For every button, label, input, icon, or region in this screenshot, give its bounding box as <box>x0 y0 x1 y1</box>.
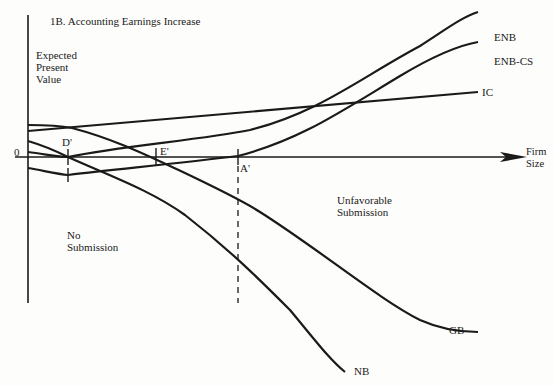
origin-label: 0 <box>14 146 20 158</box>
x-axis-label: Firm Size <box>526 146 546 170</box>
curve-label-enb: ENB <box>494 31 516 43</box>
curve-label-enb-cs: ENB-CS <box>494 55 533 67</box>
point-d-label: D' <box>62 136 72 148</box>
curve-label-ic: IC <box>482 86 493 98</box>
diagram-canvas <box>0 0 553 386</box>
region-no-submission: No Submission <box>67 229 118 253</box>
diagram-figure: 1B. Accounting Earnings Increase Expecte… <box>0 0 553 386</box>
curve-ic <box>28 92 478 131</box>
curve-nb <box>28 141 345 372</box>
region-unfavorable-submission: Unfavorable Submission <box>337 194 392 218</box>
curve-enb-cs <box>28 42 478 175</box>
point-a-label: A' <box>240 162 250 174</box>
y-axis-label: Expected Present Value <box>36 49 77 85</box>
curve-label-gb: GB <box>449 324 464 336</box>
point-e-label: E' <box>160 145 169 157</box>
diagram-title: 1B. Accounting Earnings Increase <box>50 15 200 27</box>
curve-label-nb: NB <box>354 365 369 377</box>
